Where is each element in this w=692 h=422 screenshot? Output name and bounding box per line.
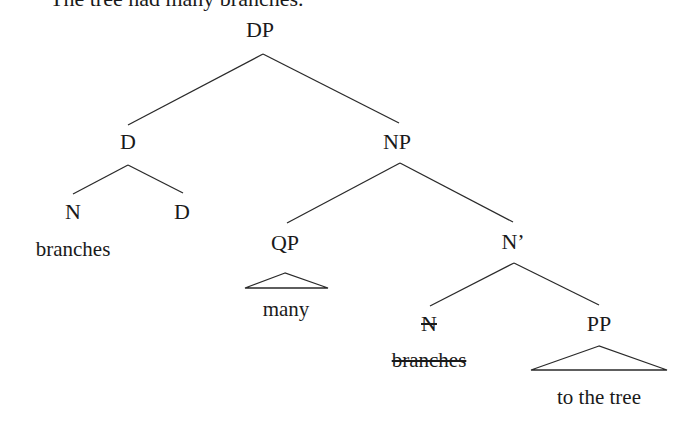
leaf-branches-deleted: branches <box>392 349 467 371</box>
edge-np-qp <box>287 163 400 223</box>
node-n-bar: N’ <box>501 231 524 253</box>
tree-branches <box>0 0 692 422</box>
edge-d_top-d_low <box>128 165 183 193</box>
edge-dp-np <box>263 54 399 123</box>
node-n-deleted: N <box>421 313 437 335</box>
edge-dp-d_top <box>128 54 263 125</box>
node-d-top: D <box>120 131 136 153</box>
node-pp: PP <box>587 313 611 335</box>
triangle-qp <box>245 273 328 288</box>
edge-np-n_bar <box>400 163 513 222</box>
leaf-branches: branches <box>36 238 111 260</box>
leaf-many: many <box>263 298 310 320</box>
node-np: NP <box>383 131 411 153</box>
node-n-left: N <box>65 201 81 223</box>
triangle-pp <box>531 346 667 370</box>
edge-n_bar-n_struck <box>430 263 514 306</box>
leaf-to-the-tree: to the tree <box>557 386 641 408</box>
edge-n_bar-pp <box>514 263 599 305</box>
edge-d_top-n_left <box>73 165 128 194</box>
node-qp: QP <box>271 232 299 254</box>
node-d-low: D <box>174 201 190 223</box>
node-dp: DP <box>246 19 274 41</box>
edges <box>73 54 599 306</box>
